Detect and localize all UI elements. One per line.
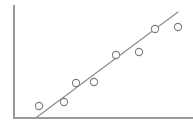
data-point [90,78,97,85]
data-point [60,98,67,105]
data-point [112,51,119,58]
data-point [174,23,181,30]
data-point [35,102,42,109]
data-point [72,79,79,86]
data-point [135,48,142,55]
scatter-plot-figure [0,0,193,127]
chart-canvas [0,0,193,127]
plot-background [0,0,193,127]
data-point [151,25,158,32]
